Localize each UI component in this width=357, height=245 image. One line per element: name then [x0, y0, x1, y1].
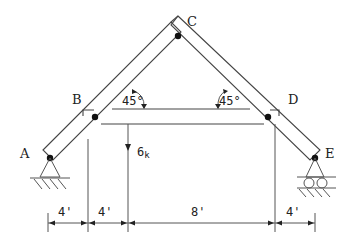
load-label: 6k: [137, 145, 150, 160]
angle-marker-b: 45°: [122, 89, 147, 109]
member-bd: [83, 109, 279, 124]
frame-diagram: A B C D E 45° 45° 6k: [0, 0, 357, 245]
member-ce: [171, 16, 320, 160]
pin-d: [265, 114, 271, 120]
angle-label-d: 45°: [219, 94, 241, 108]
pin-b: [92, 114, 98, 120]
angle-marker-d: 45°: [215, 89, 241, 109]
angle-label-b: 45°: [122, 94, 144, 108]
roller-support-e: [297, 158, 336, 197]
label-c: C: [187, 14, 197, 29]
load-arrow: [125, 124, 131, 151]
label-b: B: [72, 92, 82, 107]
label-e: E: [325, 146, 335, 161]
dim-label-2: 4': [98, 205, 112, 219]
dim-label-3: 8': [191, 205, 205, 219]
member-ac: [43, 22, 181, 160]
label-d: D: [288, 92, 298, 107]
dim-label-4: 4': [286, 205, 300, 219]
dim-label-1: 4': [58, 205, 72, 219]
extension-lines: [48, 124, 315, 232]
pin-c: [175, 33, 181, 39]
label-a: A: [19, 146, 30, 161]
pin-support-a: [30, 158, 70, 189]
